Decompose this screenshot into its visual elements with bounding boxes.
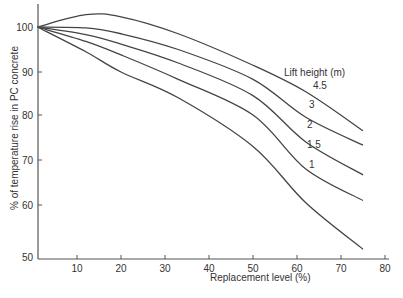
x-tick-label: 10 xyxy=(71,263,83,274)
curve-lift-1-5 xyxy=(37,27,363,201)
y-tick-label: 80 xyxy=(22,110,34,121)
x-axis-label: Replacement level (%) xyxy=(210,272,311,283)
series-label: 4.5 xyxy=(313,80,327,91)
series-curves xyxy=(37,14,363,249)
axes xyxy=(38,4,389,259)
line-chart: 1020304050607080 5060708090100 4.5321.51… xyxy=(0,0,403,298)
y-tick-label: 50 xyxy=(22,252,34,263)
y-tick-label: 90 xyxy=(22,67,34,78)
y-axis-label: % of temperature rise in PC concrete xyxy=(9,46,20,210)
legend-title: Lift height (m) xyxy=(284,67,345,78)
y-tick-label: 70 xyxy=(22,155,34,166)
y-tick-label: 60 xyxy=(22,200,34,211)
series-label: 1.5 xyxy=(307,139,321,150)
x-tick-label: 80 xyxy=(379,263,391,274)
series-labels: 4.5321.51 xyxy=(307,80,327,170)
x-tick-label: 30 xyxy=(159,263,171,274)
series-label: 1 xyxy=(309,159,315,170)
x-tick-label: 70 xyxy=(335,263,347,274)
y-tick-label: 100 xyxy=(16,22,33,33)
x-tick-label: 20 xyxy=(115,263,127,274)
series-label: 3 xyxy=(309,99,315,110)
series-label: 2 xyxy=(307,119,313,130)
